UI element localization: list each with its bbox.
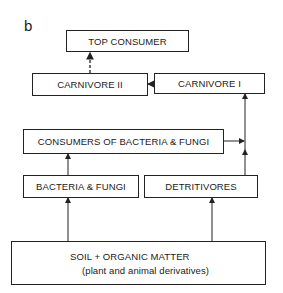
node-top-consumer: TOP CONSUMER [66,30,189,52]
node-bacteria-fungi: BACTERIA & FUNGI [23,175,139,198]
node-label: CONSUMERS OF BACTERIA & FUNGI [38,136,209,147]
node-consumers-of-bacteria-fungi: CONSUMERS OF BACTERIA & FUNGI [23,129,224,154]
node-carnivore-i: CARNIVORE I [154,73,265,94]
node-label: DETRITIVORES [165,181,236,192]
node-label: BACTERIA & FUNGI [36,181,126,192]
node-label-line1: SOIL + ORGANIC MATTER [70,251,190,262]
node-label: CARNIVORE II [57,79,123,90]
node-carnivore-ii: CARNIVORE II [32,73,148,96]
node-label: CARNIVORE I [178,78,241,89]
node-label: TOP CONSUMER [88,36,166,47]
node-detritivores: DETRITIVORES [144,175,258,198]
node-label-line2: (plant and animal derivatives) [70,265,209,276]
node-soil-organic-matter: SOIL + ORGANIC MATTER (plant and animal … [11,241,266,285]
